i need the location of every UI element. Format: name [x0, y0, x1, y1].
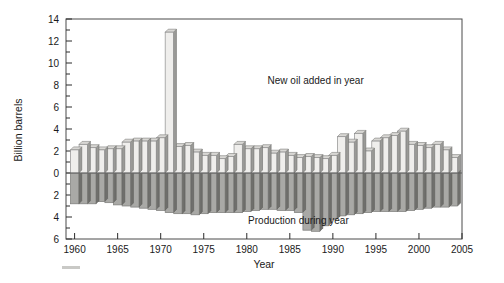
x-tick-label: 1990 [322, 244, 345, 255]
production-bar-side [139, 170, 142, 207]
new-oil-bar-side [105, 147, 108, 173]
new-oil-bar-side [406, 128, 409, 173]
production-bar-side [251, 170, 254, 212]
x-tick-label: 1995 [365, 244, 388, 255]
production-bar [70, 170, 81, 204]
new-oil-bar-side [346, 134, 349, 173]
production-bar-side [225, 170, 228, 213]
new-oil-bar-side [414, 141, 417, 173]
page-corner-mark [62, 266, 80, 269]
y-tick-label: 0 [53, 168, 59, 179]
production-bar-side [156, 170, 159, 209]
x-tick-label: 1985 [279, 244, 302, 255]
x-tick-label: 1960 [63, 244, 86, 255]
new-oil-bar-side [199, 149, 202, 173]
y-tick-label: 4 [53, 212, 59, 223]
new-oil-bar-side [251, 146, 254, 173]
new-oil-bar-side [397, 133, 400, 173]
new-oil-bar-side [277, 150, 280, 173]
new-oil-bar-side [371, 148, 374, 173]
y-axis: 14121086420246 [48, 14, 72, 245]
production-bar-side [414, 170, 417, 210]
bars-layer [70, 29, 460, 231]
production-bar-side [113, 170, 116, 203]
y-axis-title: Billion barrels [12, 98, 24, 161]
production-bar-side [337, 170, 340, 219]
production-bar-side [268, 170, 271, 209]
new-oil-bar-side [208, 152, 211, 173]
new-oil-bar-side [354, 139, 357, 173]
production-bar-side [432, 170, 435, 208]
production-bar-side [397, 170, 400, 212]
new-oil-bar-side [363, 130, 366, 173]
new-oil-bar-side [79, 147, 82, 173]
production-bar-side [363, 170, 366, 214]
production-bar-side [148, 170, 151, 208]
new-oil-bar-face [70, 150, 78, 173]
new-oil-bar-side [130, 139, 133, 173]
new-oil-bar-side [96, 145, 99, 173]
x-axis: 1960196519701975198019851990199520002005 [63, 233, 473, 255]
production-bar-side [423, 170, 426, 209]
new-oil-bar-side [87, 141, 90, 173]
production-bar-side [242, 170, 245, 213]
production-bar-side [458, 170, 461, 206]
production-bar-side [380, 170, 383, 212]
y-tick-label: 2 [53, 190, 59, 201]
new-oil-bar-side [285, 149, 288, 173]
x-tick-label: 1975 [193, 244, 216, 255]
new-oil-bar-side [173, 29, 176, 173]
new-oil-bar-side [122, 146, 125, 173]
new-oil-bar-side [191, 143, 194, 174]
production-bar-side [277, 170, 280, 209]
y-tick-label: 14 [48, 14, 60, 25]
new-oil-bar-side [156, 138, 159, 173]
x-tick-label: 1970 [150, 244, 173, 255]
new-oil-bar-side [113, 146, 116, 173]
production-bar-side [165, 170, 168, 210]
production-bar-side [346, 170, 349, 216]
production-bar-face [70, 173, 78, 204]
new-oil-bar-side [432, 145, 435, 173]
production-bar-side [79, 170, 82, 204]
y-tick-label: 6 [53, 234, 59, 245]
new-oil-bar-side [440, 141, 443, 173]
production-bar-side [285, 170, 288, 210]
new-oil-bar-side [380, 138, 383, 173]
y-tick-label: 8 [53, 80, 59, 91]
production-bar-side [234, 170, 237, 213]
production-bar-side [440, 170, 443, 207]
production-bar-side [389, 170, 392, 212]
new-oil-bar-side [449, 147, 452, 173]
y-tick-label: 4 [53, 124, 59, 135]
production-bar-side [354, 170, 357, 215]
oil-discovery-vs-production-chart: 14121086420246 1960196519701975198019851… [0, 0, 504, 283]
new-oil-bar-side [216, 152, 219, 173]
y-tick-label: 6 [53, 102, 59, 113]
production-bar-side [260, 170, 263, 210]
production-bar-side [130, 170, 133, 206]
production-bar-side [208, 170, 211, 214]
production-bar-side [191, 170, 194, 214]
new-oil-bar-side [337, 152, 340, 173]
production-bar-side [216, 170, 219, 213]
production-bar-side [105, 170, 108, 202]
y-tick-label: 12 [48, 36, 60, 47]
new-oil-bar-side [182, 144, 185, 173]
new-oil-bar-side [139, 138, 142, 173]
annotation-new-oil-label: New oil added in year [268, 75, 365, 86]
new-oil-bar-side [260, 146, 263, 173]
new-oil-bar-side [389, 135, 392, 173]
new-oil-bar-side [268, 145, 271, 173]
y-tick-label: 10 [48, 58, 60, 69]
production-bar-side [199, 170, 202, 215]
production-bar-side [371, 170, 374, 213]
production-bar-side [303, 170, 306, 213]
production-bar-side [122, 170, 125, 205]
x-tick-label: 2000 [408, 244, 431, 255]
production-bar-side [294, 170, 297, 210]
production-bar-side [449, 170, 452, 207]
production-bar-side [96, 170, 99, 204]
new-oil-bar [70, 147, 81, 173]
production-bar-side [173, 170, 176, 213]
